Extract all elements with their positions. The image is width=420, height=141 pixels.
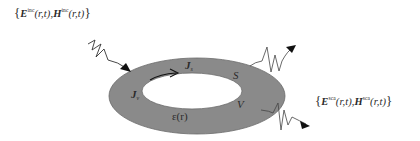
scattered-superscript: sca bbox=[328, 95, 335, 101]
close-brace: } bbox=[386, 93, 392, 108]
close-brace: } bbox=[84, 5, 90, 20]
volume-label: V bbox=[237, 99, 244, 110]
field-arguments: (r,t) bbox=[34, 8, 50, 19]
volume-current-label: Jv bbox=[131, 89, 139, 101]
field-arguments: (r,t) bbox=[336, 96, 352, 107]
field-arguments: (r,t) bbox=[69, 8, 85, 19]
open-brace: { bbox=[14, 5, 20, 20]
scattered-superscript: sca bbox=[363, 95, 370, 101]
open-brace: { bbox=[315, 93, 321, 108]
surface-subscript: s bbox=[191, 66, 193, 72]
incident-field-label: {Einc(r,t),Hinc(r,t)} bbox=[14, 6, 91, 20]
field-arguments: (r,t) bbox=[370, 96, 386, 107]
scattering-diagram bbox=[0, 0, 420, 141]
magnetic-field-symbol: H bbox=[354, 96, 362, 107]
scattered-field-label: {Esca(r,t),Hsca(r,t)} bbox=[315, 94, 392, 108]
volume-subscript: v bbox=[137, 95, 140, 101]
incident-superscript: inc bbox=[61, 7, 68, 13]
permittivity-label: ε(r) bbox=[172, 111, 188, 122]
surface-current-label: Js bbox=[185, 60, 193, 72]
incident-arrowhead bbox=[120, 63, 131, 72]
scattered-arrowhead-lower bbox=[300, 121, 310, 129]
surface-label: S bbox=[233, 70, 239, 81]
incident-wave bbox=[88, 40, 131, 72]
scattered-arrowhead-upper bbox=[286, 45, 296, 53]
